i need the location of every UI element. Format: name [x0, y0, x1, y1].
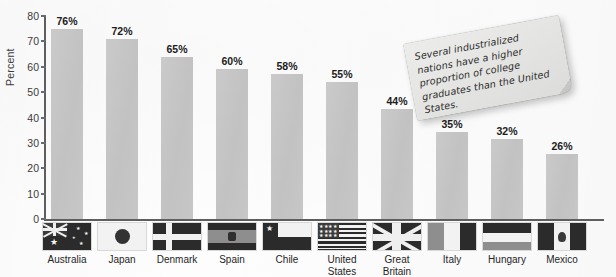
country-label: Mexico: [536, 254, 588, 266]
flag-australia: ★ ★ ★ ★ ★: [42, 222, 92, 251]
bar-mexico[interactable]: [546, 154, 578, 219]
bar-value-label: 60%: [207, 55, 257, 67]
legend-item-mexico: Mexico: [536, 222, 588, 266]
bar-value-label: 35%: [427, 118, 477, 130]
y-tick-mark: [41, 167, 46, 169]
x-axis-line: [44, 219, 604, 221]
y-tick-mark: [41, 40, 46, 42]
bar-hungary[interactable]: [491, 139, 523, 219]
y-tick-label: 70: [13, 35, 39, 47]
country-label: Spain: [206, 254, 258, 266]
country-label: Chile: [261, 254, 313, 266]
y-tick-mark: [41, 218, 46, 220]
flag-great-britain: [372, 222, 422, 251]
star-icon: ★: [79, 241, 83, 246]
legend-item-united-states: ★★★★ ★★★★ ★★★★ United States: [316, 222, 368, 277]
bar-japan[interactable]: [106, 39, 138, 219]
star-icon: ★: [76, 226, 80, 231]
legend-item-denmark: Denmark: [151, 222, 203, 266]
bar-value-label: 32%: [482, 125, 532, 137]
bar-great-britain[interactable]: [381, 109, 413, 219]
chart-page: Percent 80 70 60 50 40 30 20: [0, 0, 616, 277]
legend-item-spain: Spain: [206, 222, 258, 266]
y-tick-label: 50: [13, 86, 39, 98]
star-icon: ★: [72, 236, 76, 240]
y-tick-mark: [41, 193, 46, 195]
star-icon: ★: [266, 225, 273, 233]
flag-mexico: [537, 222, 587, 251]
y-tick-label: 0: [13, 213, 39, 225]
y-tick-10: 10: [2, 188, 50, 200]
bar-italy[interactable]: [436, 132, 468, 220]
y-tick-label: 30: [13, 137, 39, 149]
bar-value-label: 72%: [97, 25, 147, 37]
country-legend: ★ ★ ★ ★ ★ Australia Japan Denmark: [44, 222, 604, 277]
flag-chile: ★: [262, 222, 312, 251]
flag-united-states: ★★★★ ★★★★ ★★★★: [317, 222, 367, 251]
bar-united-states[interactable]: [326, 82, 358, 220]
country-label: Italy: [426, 254, 478, 266]
y-tick-label: 10: [13, 188, 39, 200]
flag-spain: [207, 222, 257, 251]
y-tick-70: 70: [2, 35, 50, 47]
bar-value-label: 55%: [317, 68, 367, 80]
y-tick-mark: [41, 142, 46, 144]
flag-denmark: [152, 222, 202, 251]
country-label: Hungary: [481, 254, 533, 266]
bar-denmark[interactable]: [161, 57, 193, 220]
bar-australia[interactable]: [51, 29, 83, 219]
country-label: Great Britain: [371, 254, 423, 277]
y-tick-30: 30: [2, 137, 50, 149]
legend-item-italy: Italy: [426, 222, 478, 266]
legend-item-japan: Japan: [96, 222, 148, 266]
legend-item-hungary: Hungary: [481, 222, 533, 266]
star-icon: ★: [84, 231, 88, 236]
legend-item-great-britain: Great Britain: [371, 222, 423, 277]
flag-italy: [427, 222, 477, 251]
flag-hungary: [482, 222, 532, 251]
y-tick-label: 80: [13, 10, 39, 22]
y-tick-mark: [41, 91, 46, 93]
y-tick-label: 40: [13, 112, 39, 124]
y-tick-40: 40: [2, 112, 50, 124]
bar-value-label: 26%: [537, 140, 587, 152]
y-tick-label: 20: [13, 162, 39, 174]
y-tick-mark: [41, 117, 46, 119]
star-icon: ★: [50, 238, 58, 247]
flag-japan: [97, 222, 147, 251]
country-label: Japan: [96, 254, 148, 266]
country-label: Denmark: [151, 254, 203, 266]
bar-spain[interactable]: [216, 69, 248, 219]
y-tick-60: 60: [2, 61, 50, 73]
country-label: United States: [316, 254, 368, 277]
y-tick-label: 60: [13, 61, 39, 73]
bar-value-label: 76%: [42, 15, 92, 27]
bar-value-label: 58%: [262, 60, 312, 72]
y-tick-mark: [41, 66, 46, 68]
bar-value-label: 65%: [152, 43, 202, 55]
y-tick-20: 20: [2, 162, 50, 174]
bar-chile[interactable]: [271, 74, 303, 219]
y-tick-50: 50: [2, 86, 50, 98]
country-label: Australia: [41, 254, 93, 266]
legend-item-australia: ★ ★ ★ ★ ★ Australia: [41, 222, 93, 266]
legend-item-chile: ★ Chile: [261, 222, 313, 266]
